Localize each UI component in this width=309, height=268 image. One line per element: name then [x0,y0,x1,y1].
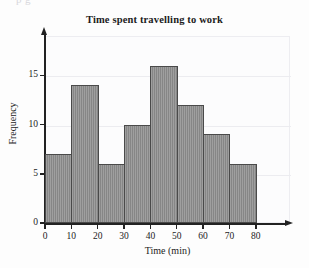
x-axis-tick [97,224,99,229]
y-axis-tick [40,75,45,77]
x-axis-tick-label: 80 [244,231,268,241]
x-axis-tick-label: 70 [217,231,241,241]
x-axis-tick [255,224,257,229]
y-axis-tick-label: 15 [29,70,39,80]
histogram-bar [177,105,204,223]
histogram-bar [71,85,98,223]
x-axis-tick [150,224,152,229]
x-axis-tick-label: 10 [59,231,83,241]
x-axis-tick-label: 40 [138,231,162,241]
x-axis-tick-label: 0 [33,231,57,241]
x-axis-tick-label: 60 [191,231,215,241]
y-axis-title: Frequency [7,86,18,162]
x-axis-tick [71,224,73,229]
x-axis-tick-label: 50 [165,231,189,241]
y-axis-tick-label: 0 [33,218,38,228]
histogram-bar [203,134,230,223]
x-axis-line [44,223,287,225]
x-axis-tick [44,224,46,229]
histogram-bar [45,154,72,223]
x-axis-tick [123,224,125,229]
bleed-text: p g [16,0,31,5]
y-axis-tick-label: 10 [29,120,39,130]
histogram-bar [150,66,177,223]
x-axis-tick [202,224,204,229]
x-axis-tick-label: 20 [86,231,110,241]
x-axis-tick [176,224,178,229]
chart-title: Time spent travelling to work [0,14,309,25]
page-bleed-text: p g [0,0,309,12]
y-axis-tick [40,124,45,126]
x-axis-tick-label: 30 [112,231,136,241]
histogram-bars [45,36,290,223]
y-axis-arrow-icon [41,27,47,35]
x-axis-tick [229,224,231,229]
histogram-bar [229,164,256,223]
y-axis-tick [40,173,45,175]
x-axis-title: Time (min) [45,245,290,256]
histogram-bar [98,164,125,223]
chart-screenshot: p g Time spent travelling to work Time (… [0,0,309,268]
histogram-bar [124,125,151,223]
y-axis-tick-label: 5 [33,169,38,179]
